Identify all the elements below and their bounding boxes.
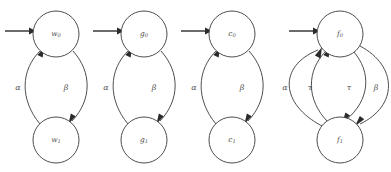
state-node-c1: c1 [209, 117, 255, 163]
initial-arrow-c0 [181, 27, 212, 34]
state-node-f1: f1 [317, 117, 363, 163]
state-node-g1: g1 [121, 117, 167, 163]
edge-w0-to-w1-beta [69, 51, 88, 124]
automaton-g: g0 g1 α β [93, 11, 175, 163]
edge-label-g-beta: β [151, 83, 157, 92]
automaton-c: c0 c1 α β [181, 11, 263, 163]
automaton-f: f0 f1 α τ τ β [282, 11, 388, 163]
edge-g0-to-g1-beta [157, 51, 176, 124]
automata-figure: w0 w1 α β [0, 0, 391, 172]
automaton-w: w0 w1 α β [5, 11, 87, 163]
edge-label-w-alpha: α [15, 83, 21, 92]
edge-c0-to-c1-beta [245, 51, 264, 124]
edge-w1-to-w0-alpha [25, 47, 44, 124]
state-node-w0: w0 [33, 11, 79, 57]
edge-g1-to-g0-alpha [113, 47, 132, 124]
edge-label-g-alpha: α [103, 83, 109, 92]
state-node-f0: f0 [317, 11, 363, 57]
state-node-g0: g0 [121, 11, 167, 57]
state-node-c0: c0 [209, 11, 255, 57]
initial-arrow-g0 [93, 27, 124, 34]
automata-canvas: w0 w1 α β [0, 0, 391, 172]
edge-label-c-beta: β [239, 83, 245, 92]
edge-label-f-beta: β [373, 83, 379, 92]
edge-label-c-alpha: α [191, 83, 197, 92]
state-node-w1: w1 [33, 117, 79, 163]
edge-f0-to-f1-beta [355, 46, 388, 126]
edge-f1-to-f0-alpha [289, 47, 322, 126]
initial-arrow-w0 [5, 27, 36, 34]
edge-label-f-tau-left: τ [308, 83, 313, 92]
edge-label-w-beta: β [63, 83, 69, 92]
edge-f1-to-f0-tau [311, 47, 330, 122]
edge-c1-to-c0-alpha [201, 47, 220, 124]
initial-arrow-f0 [289, 27, 320, 34]
edge-label-f-tau-right: τ [347, 83, 352, 92]
edge-label-f-alpha: α [282, 83, 288, 92]
